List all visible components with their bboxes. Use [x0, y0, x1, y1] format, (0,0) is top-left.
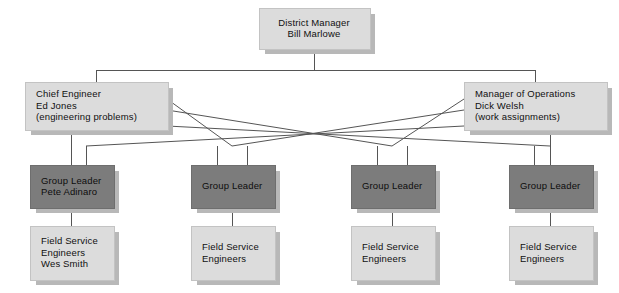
node-field-service-2[interactable]: Field Service Engineers [191, 226, 274, 279]
node-line: Engineers [362, 253, 428, 265]
node-line: Engineers [41, 247, 107, 259]
node-line: (work assignments) [475, 111, 600, 123]
node-group-leader-1[interactable]: Group Leader Pete Adinaro [30, 165, 113, 207]
node-manager-of-operations[interactable]: Manager of Operations Dick Welsh (work a… [464, 82, 606, 129]
node-line: Ed Jones [36, 100, 161, 112]
node-field-service-1[interactable]: Field Service Engineers Wes Smith [30, 226, 113, 279]
node-line: Field Service [41, 235, 107, 247]
node-line: Group Leader [362, 180, 428, 192]
node-line: Chief Engineer [36, 88, 161, 100]
connector-ce-gl2 [167, 99, 232, 146]
node-group-leader-4[interactable]: Group Leader [509, 165, 592, 207]
node-line: Dick Welsh [475, 100, 600, 112]
node-line: District Manager [278, 17, 350, 29]
node-line: Pete Adinaro [41, 186, 107, 198]
node-line: Field Service [202, 241, 268, 253]
node-line: Field Service [362, 241, 428, 253]
node-line: Engineers [520, 253, 586, 265]
connector-mo-gl2 [232, 110, 464, 146]
node-line: Group Leader [41, 175, 107, 187]
connector-ce-gl3 [167, 110, 392, 146]
node-line: Manager of Operations [475, 88, 600, 100]
node-line: Engineers [202, 253, 268, 265]
node-line: Field Service [520, 241, 586, 253]
node-line: Bill Marlowe [287, 28, 340, 40]
node-line: Wes Smith [41, 258, 107, 270]
org-chart-canvas: District Manager Bill Marlowe Chief Engi… [0, 0, 619, 293]
node-chief-engineer[interactable]: Chief Engineer Ed Jones (engineering pro… [25, 82, 167, 129]
node-line: Group Leader [202, 180, 268, 192]
node-line: (engineering problems) [36, 111, 161, 123]
connector-bracket-gl2 [217, 146, 247, 165]
node-group-leader-2[interactable]: Group Leader [191, 165, 274, 207]
node-line: Group Leader [520, 180, 586, 192]
node-field-service-3[interactable]: Field Service Engineers [351, 226, 434, 279]
node-field-service-4[interactable]: Field Service Engineers [509, 226, 592, 279]
node-district-manager[interactable]: District Manager Bill Marlowe [259, 8, 369, 48]
node-group-leader-3[interactable]: Group Leader [351, 165, 434, 207]
connector-mo-gl3 [392, 99, 464, 146]
connector-bracket-gl3 [377, 146, 407, 165]
